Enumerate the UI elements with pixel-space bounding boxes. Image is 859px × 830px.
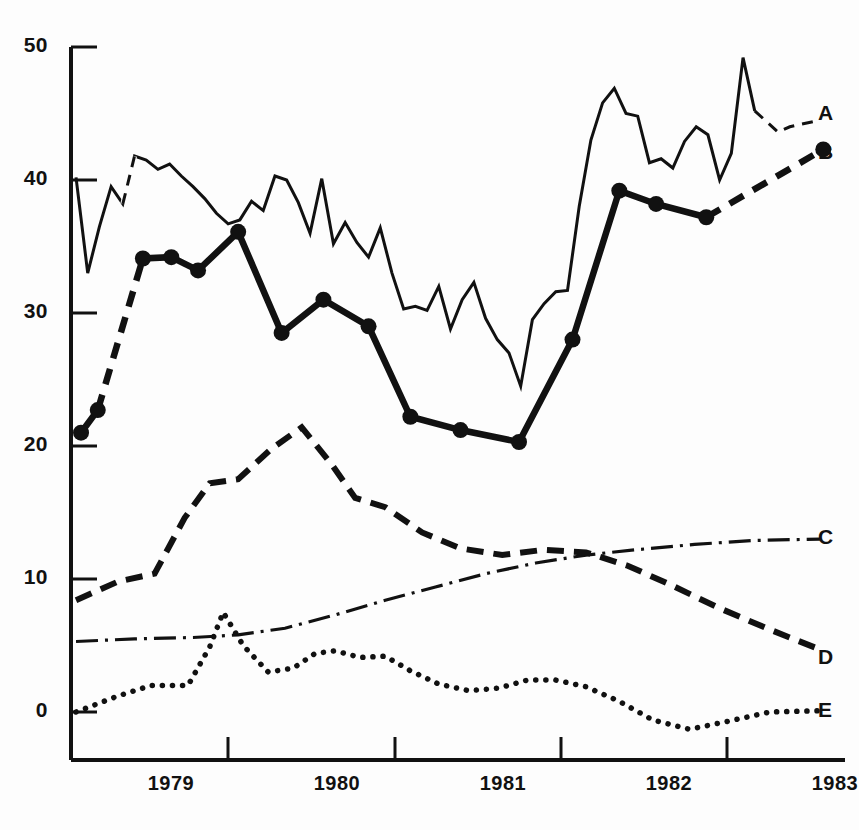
data-point-marker: [73, 425, 89, 441]
y-tick-label-0: 0: [4, 698, 48, 722]
data-point-marker: [230, 224, 246, 240]
y-tick-label-40: 40: [4, 166, 48, 190]
series-label-a: A: [818, 101, 833, 125]
y-tick-label-10: 10: [4, 565, 48, 589]
series-label-c: C: [818, 525, 833, 549]
line-chart: 50 40 30 20 10 0 1979 1980 1981 1982 198…: [0, 0, 859, 830]
data-point-marker: [190, 262, 206, 278]
series-layer: [73, 58, 831, 730]
y-tick-label-20: 20: [4, 432, 48, 456]
x-tick-label-1982: 1982: [624, 772, 714, 795]
data-point-marker: [315, 292, 331, 308]
data-point-marker: [402, 409, 418, 425]
data-point-marker: [163, 249, 179, 265]
data-point-marker: [611, 183, 627, 199]
series-e: [76, 612, 823, 729]
x-tick-label-1983: 1983: [790, 772, 859, 795]
plot-area: [0, 0, 859, 830]
data-point-marker: [698, 209, 714, 225]
axes-group: [71, 47, 845, 760]
series-d: [76, 427, 823, 650]
data-point-marker: [511, 434, 527, 450]
series-c: [76, 539, 820, 641]
data-point-marker: [274, 325, 290, 341]
data-point-marker: [90, 402, 106, 418]
y-tick-label-30: 30: [4, 299, 48, 323]
series-label-e: E: [818, 698, 832, 722]
data-point-marker: [453, 422, 469, 438]
data-point-marker: [565, 332, 581, 348]
data-point-marker: [648, 196, 664, 212]
x-tick-label-1981: 1981: [458, 772, 548, 795]
data-point-marker: [135, 250, 151, 266]
data-point-marker: [361, 318, 377, 334]
y-tick-marks: [71, 47, 97, 712]
series-b: [73, 141, 831, 450]
x-tick-label-1980: 1980: [292, 772, 382, 795]
series-label-d: D: [818, 645, 833, 669]
x-tick-label-1979: 1979: [126, 772, 216, 795]
y-tick-label-50: 50: [4, 33, 48, 57]
x-tick-marks: [228, 737, 727, 760]
series-label-b: B: [818, 140, 833, 164]
